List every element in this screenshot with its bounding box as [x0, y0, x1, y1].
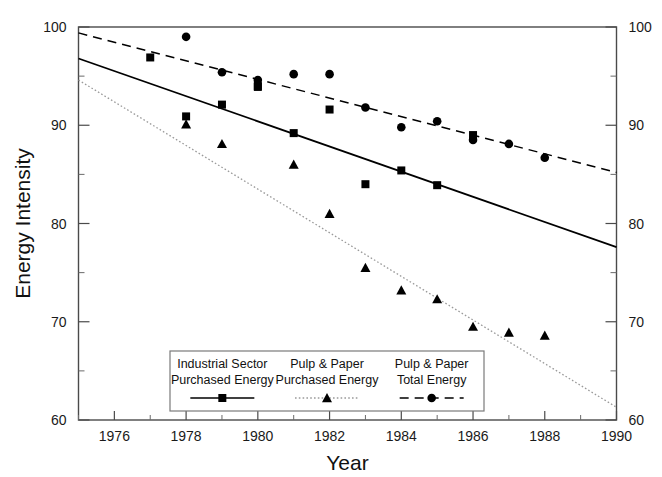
y-tick-label-right-70: 70: [629, 314, 645, 330]
x-tick-label-1978: 1978: [171, 428, 202, 444]
trend-line-series-2: [79, 33, 617, 173]
legend-label-line2-1: Purchased Energy: [276, 373, 380, 387]
chart-legend[interactable]: Industrial SectorPurchased EnergyPulp & …: [170, 351, 484, 411]
data-point-s1-3: [325, 209, 335, 218]
legend-label-line2-0: Purchased Energy: [171, 373, 275, 387]
square-icon: [218, 394, 226, 402]
x-tick-label-1986: 1986: [457, 428, 488, 444]
y-tick-label-left-100: 100: [43, 19, 67, 35]
trend-line-series-0: [79, 58, 617, 247]
y-tick-label-right-60: 60: [629, 412, 645, 428]
y-tick-label-right-80: 80: [629, 216, 645, 232]
x-tick-label-1984: 1984: [386, 428, 417, 444]
data-point-s4-0: [254, 83, 262, 91]
circle-icon: [427, 394, 436, 403]
data-point-s2-9: [505, 140, 514, 149]
x-tick-label-1982: 1982: [314, 428, 345, 444]
data-point-s3-0: [182, 112, 190, 120]
y-tick-label-right-90: 90: [629, 117, 645, 133]
x-tick-label-1990: 1990: [601, 428, 632, 444]
x-tick-label-1988: 1988: [529, 428, 560, 444]
x-axis-title: Year: [326, 451, 368, 474]
data-point-s0-1: [218, 101, 226, 109]
y-axis-title: Energy Intensity: [11, 148, 34, 299]
y-tick-label-left-90: 90: [51, 117, 67, 133]
x-tick-label-1980: 1980: [242, 428, 273, 444]
data-point-s2-10: [540, 153, 549, 162]
data-point-s2-4: [325, 70, 334, 79]
data-point-s1-5: [396, 285, 406, 294]
legend-label-line1-2: Pulp & Paper: [395, 357, 469, 371]
chart-canvas: Industrial SectorPurchased EnergyPulp & …: [0, 0, 662, 477]
legend-label-line1-0: Industrial Sector: [177, 357, 267, 371]
legend-label-line2-2: Total Energy: [397, 373, 467, 387]
data-point-s0-0: [146, 53, 154, 61]
data-point-s1-4: [360, 263, 370, 272]
data-point-s1-2: [289, 160, 299, 169]
energy-intensity-chart-figure: Industrial SectorPurchased EnergyPulp & …: [0, 0, 662, 477]
y-tick-label-left-80: 80: [51, 216, 67, 232]
data-point-s1-1: [217, 139, 227, 148]
y-tick-label-right-100: 100: [629, 19, 653, 35]
data-point-s1-0: [181, 119, 191, 128]
data-point-s2-1: [218, 68, 227, 77]
data-point-s1-8: [504, 328, 514, 337]
y-tick-label-left-70: 70: [51, 314, 67, 330]
data-point-s0-3: [290, 129, 298, 137]
x-tick-label-1976: 1976: [99, 428, 130, 444]
data-point-s2-5: [361, 103, 370, 112]
data-point-s1-9: [540, 331, 550, 340]
y-tick-label-left-60: 60: [51, 412, 67, 428]
data-point-s1-7: [468, 322, 478, 331]
data-point-s2-8: [469, 136, 478, 145]
data-point-s2-6: [397, 123, 406, 132]
data-point-s2-3: [289, 70, 298, 79]
legend-label-line1-1: Pulp & Paper: [290, 357, 364, 371]
data-point-s0-7: [433, 181, 441, 189]
data-point-s2-0: [182, 33, 191, 42]
data-point-s0-6: [397, 166, 405, 174]
data-point-s0-5: [361, 180, 369, 188]
data-point-s0-4: [326, 106, 334, 114]
data-point-s2-7: [433, 117, 442, 126]
